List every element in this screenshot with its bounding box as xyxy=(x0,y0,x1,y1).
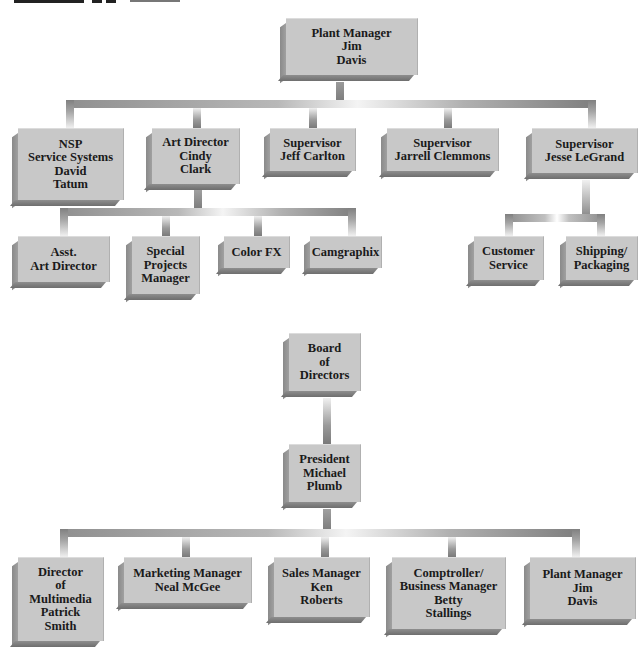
node-line: Multimedia xyxy=(29,593,92,607)
connector-to-jeff-carlton xyxy=(309,108,317,128)
node-line: Directors xyxy=(300,369,350,383)
node-line: Sales Manager xyxy=(282,567,361,581)
node-line: Art Director xyxy=(30,260,97,274)
node-comptroller-business-manager: Comptroller/ Business Manager Betty Stal… xyxy=(392,557,506,629)
connector-to-asst-art-director xyxy=(60,208,68,236)
node-supervisor-jarrell-clemmons: Supervisor Jarrell Clemmons xyxy=(387,128,499,171)
node-line: Art Director xyxy=(162,136,229,150)
node-line: Comptroller/ xyxy=(414,567,484,581)
connector-legrand-down xyxy=(582,180,590,216)
node-line: of xyxy=(319,356,329,370)
node-line: Smith xyxy=(45,620,77,634)
node-line: Ken xyxy=(310,581,332,595)
node-line: Color FX xyxy=(231,246,281,260)
connector-to-camgraphix xyxy=(348,208,356,236)
connector-to-special-projects xyxy=(162,216,170,236)
connector-art-reports-bus xyxy=(60,208,356,216)
node-supervisor-jesse-legrand: Supervisor Jesse LeGrand xyxy=(532,128,638,173)
node-line: Business Manager xyxy=(400,580,498,594)
node-line: Cindy xyxy=(179,150,212,164)
connector-legrand-bus xyxy=(505,214,605,222)
node-line: President xyxy=(299,453,349,467)
node-line: Board xyxy=(308,342,341,356)
connector-to-sales xyxy=(321,537,329,557)
connector-to-shipping-packaging xyxy=(597,214,605,236)
connector-level1-bus xyxy=(66,100,596,108)
connector-to-comptroller xyxy=(448,537,456,557)
connector-to-nsp xyxy=(66,100,74,128)
node-customer-service: Customer Service xyxy=(474,236,544,280)
node-color-fx: Color FX xyxy=(224,236,290,268)
connector-art-director-down xyxy=(194,190,202,208)
node-line: Supervisor xyxy=(413,137,471,151)
node-camgraphix: Camgraphix xyxy=(310,236,382,268)
node-line: NSP xyxy=(59,138,83,152)
node-name-last: Davis xyxy=(337,54,367,68)
node-line: Jeff Carlton xyxy=(280,150,345,164)
connector-to-customer-service xyxy=(505,214,513,236)
node-line: Supervisor xyxy=(555,138,613,152)
connector-to-jesse-legrand xyxy=(588,100,596,128)
node-art-director: Art Director Cindy Clark xyxy=(152,128,240,184)
node-line: Service xyxy=(489,259,528,273)
connector-to-plant-manager xyxy=(572,529,580,557)
node-name-first: Jim xyxy=(341,40,361,54)
node-line: Jesse LeGrand xyxy=(545,151,625,165)
node-president: President Michael Plumb xyxy=(289,444,361,502)
node-line: Patrick xyxy=(41,606,81,620)
node-plant-manager: Plant Manager Jim Davis xyxy=(530,557,636,619)
node-line: Michael xyxy=(303,467,346,481)
node-line: Plant Manager xyxy=(542,568,622,582)
node-line: David xyxy=(55,165,87,179)
connector-president-down xyxy=(323,509,331,529)
node-line: Clark xyxy=(180,163,211,177)
node-line: Manager xyxy=(141,272,190,286)
node-board-of-directors: Board of Directors xyxy=(289,333,361,391)
node-line: Packaging xyxy=(574,259,630,273)
connector-to-color-fx xyxy=(254,216,262,236)
connector-to-art-director xyxy=(193,108,201,128)
node-line: Jim xyxy=(572,582,592,596)
node-line: Shipping/ xyxy=(576,245,627,259)
node-line: Davis xyxy=(568,595,598,609)
node-line: Tatum xyxy=(53,178,88,192)
connector-to-multimedia xyxy=(60,529,68,557)
node-shipping-packaging: Shipping/ Packaging xyxy=(566,236,638,280)
node-line: Jarrell Clemmons xyxy=(395,150,491,164)
node-sales-manager: Sales Manager Ken Roberts xyxy=(274,557,370,617)
connector-board-to-president xyxy=(323,398,331,444)
node-line: Betty xyxy=(434,594,462,608)
node-title: Plant Manager xyxy=(311,27,391,41)
node-line: Asst. xyxy=(50,246,76,260)
node-line: Special xyxy=(146,245,184,259)
node-line: Roberts xyxy=(300,594,342,608)
connector-to-marketing xyxy=(182,537,190,557)
node-line: Camgraphix xyxy=(312,246,379,260)
node-nsp-service-systems: NSP Service Systems David Tatum xyxy=(18,128,124,200)
node-line: Service Systems xyxy=(28,151,113,165)
node-line: Neal McGee xyxy=(155,581,221,595)
node-supervisor-jeff-carlton: Supervisor Jeff Carlton xyxy=(270,128,356,171)
node-line: Plumb xyxy=(307,480,342,494)
connector-to-jarrell-clemmons xyxy=(444,108,452,128)
node-director-multimedia: Director of Multimedia Patrick Smith xyxy=(18,557,104,641)
node-asst-art-director: Asst. Art Director xyxy=(18,236,110,282)
node-special-projects-manager: Special Projects Manager xyxy=(132,236,200,294)
node-line: Marketing Manager xyxy=(133,567,242,581)
node-line: Stallings xyxy=(426,607,472,621)
node-plant-manager-root: Plant Manager Jim Davis xyxy=(286,18,418,75)
node-line: Customer xyxy=(482,245,535,259)
node-line: of xyxy=(55,579,65,593)
connector-root-down xyxy=(336,82,344,100)
connector-reports-bus xyxy=(60,529,580,537)
node-line: Director xyxy=(38,566,83,580)
node-marketing-manager: Marketing Manager Neal McGee xyxy=(124,557,252,603)
cropped-header-fragment xyxy=(0,0,200,4)
node-line: Supervisor xyxy=(283,137,341,151)
node-line: Projects xyxy=(144,259,188,273)
